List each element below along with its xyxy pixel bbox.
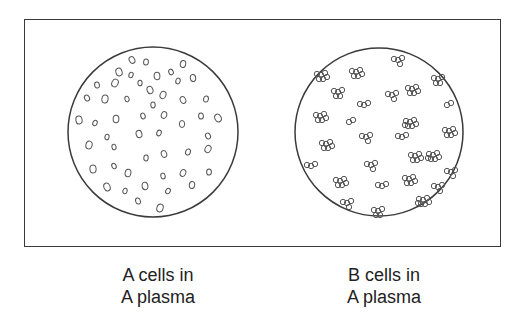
right-caption: B cells in A plasma bbox=[304, 264, 464, 308]
left-caption-line1: A cells in bbox=[78, 264, 238, 286]
dispersed-cells bbox=[75, 56, 222, 213]
left-caption-line2: A plasma bbox=[78, 286, 238, 308]
left-caption: A cells in A plasma bbox=[78, 264, 238, 308]
right-caption-line2: A plasma bbox=[304, 286, 464, 308]
right-caption-line1: B cells in bbox=[304, 264, 464, 286]
agglutinated-cell-clumps bbox=[304, 55, 457, 217]
left-sample-dish bbox=[68, 47, 238, 217]
right-sample-dish bbox=[295, 48, 463, 218]
